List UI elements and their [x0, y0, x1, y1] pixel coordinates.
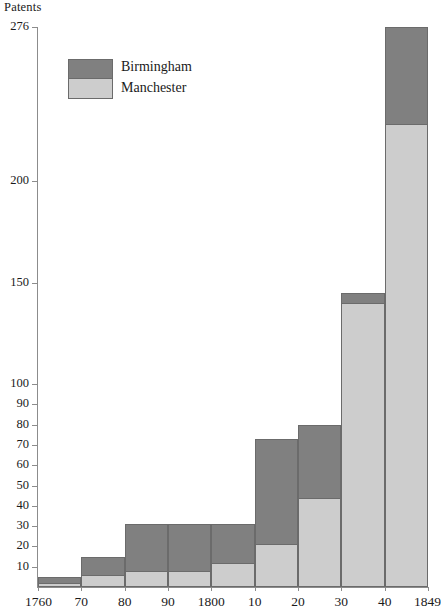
y-tick-mark	[32, 506, 37, 507]
bar-1770	[81, 557, 124, 587]
bar-segment-manchester	[385, 124, 428, 587]
x-tick-label: 10	[248, 593, 262, 611]
bar-segment-manchester	[38, 583, 81, 587]
bar-segment-manchester	[211, 563, 254, 587]
y-axis-tick: 80	[0, 425, 37, 426]
y-tick-mark	[32, 567, 37, 568]
y-axis-tick: 100	[0, 384, 37, 385]
bar-1840	[385, 27, 428, 587]
x-tick-mark	[341, 587, 342, 591]
y-axis-tick: 10	[0, 567, 37, 568]
bar-segment-birmingham	[168, 524, 211, 571]
y-tick-mark	[32, 546, 37, 547]
bar-1800	[211, 524, 254, 587]
bar-segment-birmingham	[255, 439, 298, 545]
x-tick-mark	[298, 587, 299, 591]
x-tick-label: 80	[118, 593, 132, 611]
legend-label-manchester: Manchester	[121, 77, 192, 98]
bar-segment-birmingham	[341, 293, 384, 303]
y-tick-mark	[32, 181, 37, 182]
y-axis-tick: 276	[0, 27, 37, 28]
y-tick-label: 80	[17, 416, 30, 433]
x-tick-label: 1760	[25, 593, 52, 611]
x-tick-label: 1800	[198, 593, 225, 611]
y-tick-mark	[32, 283, 37, 284]
bar-segment-birmingham	[81, 557, 124, 575]
y-tick-label: 70	[17, 436, 30, 453]
y-axis-tick: 30	[0, 526, 37, 527]
y-tick-label: 276	[10, 18, 29, 35]
y-tick-mark	[32, 404, 37, 405]
legend-label-birmingham: Birmingham	[121, 56, 192, 77]
x-tick-mark	[428, 587, 429, 591]
y-tick-mark	[32, 445, 37, 446]
y-tick-mark	[32, 384, 37, 385]
x-tick-label: 40	[378, 593, 392, 611]
legend-swatch-box	[68, 59, 113, 99]
y-tick-label: 20	[17, 537, 30, 554]
bar-segment-manchester	[125, 571, 168, 587]
y-axis-tick: 70	[0, 445, 37, 446]
y-tick-label: 150	[10, 274, 29, 291]
y-axis-tick: 60	[0, 465, 37, 466]
x-axis-line	[37, 587, 428, 588]
y-tick-mark	[32, 425, 37, 426]
bar-segment-manchester	[341, 303, 384, 587]
y-tick-label: 60	[17, 456, 30, 473]
y-tick-mark	[32, 465, 37, 466]
bar-segment-birmingham	[211, 524, 254, 563]
legend-label-list: Birmingham Manchester	[121, 56, 192, 98]
y-tick-mark	[32, 526, 37, 527]
bar-1810	[255, 439, 298, 587]
y-axis-tick: 20	[0, 546, 37, 547]
x-tick-label: 20	[291, 593, 305, 611]
y-axis-line	[37, 27, 38, 588]
x-tick-mark	[385, 587, 386, 591]
x-tick-mark	[168, 587, 169, 591]
x-tick-mark	[125, 587, 126, 591]
bar-1760	[38, 577, 81, 587]
y-tick-label: 90	[17, 395, 30, 412]
x-tick-label: 1849	[414, 593, 441, 611]
bar-segment-manchester	[168, 571, 211, 587]
y-tick-label: 30	[17, 517, 30, 534]
x-tick-label: 70	[75, 593, 89, 611]
bar-1780	[125, 524, 168, 587]
y-tick-label: 200	[10, 172, 29, 189]
bar-segment-birmingham	[298, 425, 341, 498]
y-axis-tick: 40	[0, 506, 37, 507]
x-tick-mark	[255, 587, 256, 591]
y-tick-label: 10	[17, 558, 30, 575]
bar-segment-birmingham	[385, 27, 428, 124]
legend-swatch-birmingham	[69, 60, 112, 79]
y-axis-tick: 200	[0, 181, 37, 182]
bar-1790	[168, 524, 211, 587]
y-axis-tick: 90	[0, 404, 37, 405]
x-tick-label: 30	[335, 593, 349, 611]
x-tick-mark	[211, 587, 212, 591]
y-tick-mark	[32, 486, 37, 487]
bar-segment-manchester	[298, 498, 341, 587]
bar-1820	[298, 425, 341, 587]
bar-segment-manchester	[81, 575, 124, 587]
x-tick-mark	[81, 587, 82, 591]
y-tick-label: 100	[10, 375, 29, 392]
bar-1830	[341, 293, 384, 587]
legend-swatch-manchester	[69, 79, 112, 98]
x-tick-mark	[38, 587, 39, 591]
bar-segment-manchester	[255, 544, 298, 587]
y-axis-tick: 150	[0, 283, 37, 284]
y-tick-mark	[32, 27, 37, 28]
y-tick-label: 40	[17, 497, 30, 514]
x-tick-label: 90	[161, 593, 175, 611]
y-axis-tick: 50	[0, 486, 37, 487]
bar-segment-birmingham	[125, 524, 168, 571]
y-axis-title: Patents	[4, 0, 42, 15]
y-tick-label: 50	[17, 477, 30, 494]
